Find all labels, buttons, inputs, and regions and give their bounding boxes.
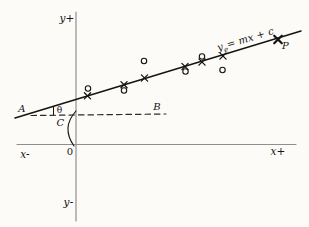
regression-line-diagram: y+ y- x- x+ 0 A B C θ P ye= mx + c	[0, 0, 309, 227]
dashed-line-ab	[31, 114, 166, 116]
observed-point-circle	[85, 86, 90, 91]
intercept-c-label: C	[57, 118, 65, 128]
x-axis-positive-label: x+	[270, 145, 285, 156]
point-p-label: P	[282, 41, 289, 51]
origin-label: 0	[67, 147, 74, 157]
observed-point-circle	[199, 54, 204, 59]
point-b-label: B	[153, 102, 161, 112]
y-axis-positive-label: y+	[59, 12, 74, 23]
x-axis-negative-label: x-	[20, 148, 30, 159]
intercept-brace	[68, 111, 76, 146]
observed-point-circle	[220, 67, 225, 72]
y-axis-negative-label: y-	[64, 197, 74, 208]
angle-theta-label: θ	[57, 106, 63, 115]
observed-point-circle	[121, 88, 126, 93]
point-a-label: A	[18, 104, 25, 114]
observed-point-circle	[141, 58, 146, 63]
